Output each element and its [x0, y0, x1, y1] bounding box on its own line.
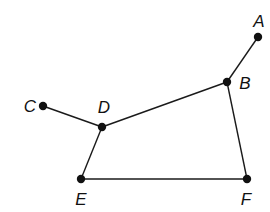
graph-diagram: ABCDEF — [0, 0, 270, 212]
vertex-f — [243, 175, 251, 183]
edge-d-e — [81, 127, 102, 179]
vertex-d — [98, 123, 106, 131]
vertices-group — [39, 33, 262, 183]
vertex-label-f: F — [241, 190, 253, 209]
vertex-b — [223, 78, 231, 86]
vertex-label-c: C — [24, 97, 37, 116]
vertex-label-b: B — [239, 74, 250, 93]
edge-b-f — [227, 82, 247, 179]
vertex-label-d: D — [98, 98, 110, 117]
edge-b-d — [102, 82, 227, 127]
vertex-c — [39, 102, 47, 110]
edges-group — [43, 37, 258, 179]
vertex-label-e: E — [75, 190, 87, 209]
vertex-a — [254, 33, 262, 41]
edge-c-d — [43, 106, 102, 127]
vertex-label-a: A — [252, 12, 264, 31]
vertex-e — [77, 175, 85, 183]
